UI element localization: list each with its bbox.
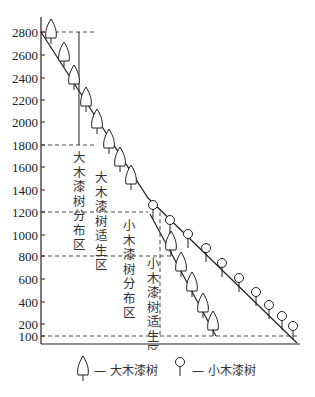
big-tree-icon xyxy=(76,354,90,384)
y-tick-label: 2400 xyxy=(12,71,38,86)
y-tick-label: 1800 xyxy=(12,138,38,153)
y-tick-label: 2000 xyxy=(12,115,38,130)
zone-label-small-suitable: 小木漆树适生区 xyxy=(147,256,160,350)
legend: — 大木漆树 — 小木漆树 xyxy=(0,350,315,390)
legend-small-tree: — 小木漆树 xyxy=(174,354,256,384)
zone-label-big-distribution: 大木漆树分布区 xyxy=(73,150,86,252)
zone-label-small-distribution: 小木漆树分布区 xyxy=(123,218,136,320)
small-tree-icon xyxy=(174,354,186,384)
y-tick-label: 1200 xyxy=(12,205,38,220)
altitude-distribution-diagram: 2800260024002200200018001600140012001000… xyxy=(0,0,315,350)
y-tick-label: 1600 xyxy=(12,160,38,175)
y-axis-ticks: 2800260024002200200018001600140012001000… xyxy=(12,25,45,344)
y-tick-label: 100 xyxy=(19,329,39,344)
legend-small-tree-label: — 小木漆树 xyxy=(192,361,256,378)
legend-big-tree: — 大木漆树 xyxy=(76,354,158,384)
y-tick-label: 2800 xyxy=(12,25,38,40)
y-tick-label: 400 xyxy=(19,295,39,310)
y-tick-label: 800 xyxy=(19,249,39,264)
y-tick-label: 1000 xyxy=(12,228,38,243)
zone-label-big-suitable: 大木漆树适生区 xyxy=(95,170,108,272)
y-tick-label: 600 xyxy=(19,272,39,287)
legend-big-tree-label: — 大木漆树 xyxy=(94,361,158,378)
y-tick-label: 2600 xyxy=(12,48,38,63)
y-tick-label: 1400 xyxy=(12,183,38,198)
y-tick-label: 2200 xyxy=(12,93,38,108)
